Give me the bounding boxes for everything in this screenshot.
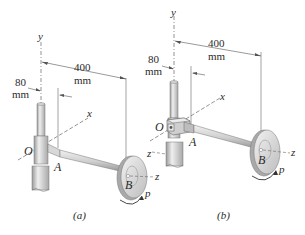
disk-face <box>254 130 280 174</box>
dim-offset-value: 80 <box>148 53 160 65</box>
pivot-pin-icon <box>170 126 173 129</box>
point-a-label: A <box>53 160 62 174</box>
arrowhead-icon <box>59 94 64 97</box>
z-axis-back-line <box>152 152 166 154</box>
tee-fitting <box>34 136 48 164</box>
point-b-label: B <box>258 153 266 167</box>
z-axis-label: z <box>290 146 296 158</box>
arrowhead-icon <box>169 66 174 69</box>
arrowhead-icon <box>192 72 197 75</box>
caption-a: (a) <box>73 209 86 222</box>
shaft-end-cap <box>37 103 45 106</box>
arrowhead-icon <box>175 41 181 44</box>
point-b-marker <box>259 148 262 151</box>
vertical-shaft-lower <box>32 166 49 190</box>
panel-b: y x 400 mm 80 mm <box>145 6 296 222</box>
arrowhead-icon <box>42 62 48 65</box>
arrowhead-icon <box>36 88 41 91</box>
dim-length-unit: mm <box>208 50 226 62</box>
caption-b: (b) <box>217 209 230 222</box>
dim-length-unit: mm <box>74 74 92 86</box>
dim-length-value: 400 <box>74 61 91 73</box>
point-o-label: O <box>155 120 164 134</box>
shaft-end-cap <box>170 81 178 84</box>
dim-offset-value: 80 <box>15 76 27 88</box>
point-a-label: A <box>188 135 197 149</box>
point-o-label: O <box>24 144 33 158</box>
vertical-shaft-upper <box>37 104 45 136</box>
z-axis-label: z <box>154 170 160 182</box>
y-axis-label: y <box>170 6 176 18</box>
point-b-label: B <box>125 178 133 192</box>
rotation-label: p <box>144 187 151 199</box>
x-axis-label: x <box>86 107 92 119</box>
arm-collar <box>184 122 194 133</box>
rotation-label: p <box>278 163 285 175</box>
y-axis-label: y <box>37 30 43 42</box>
x-axis-label: x <box>219 90 225 102</box>
panel-a: y x 400 mm 80 mm <box>12 30 160 222</box>
dim-offset-unit: mm <box>145 65 163 77</box>
vertical-shaft-upper <box>170 82 178 118</box>
dim-offset-unit: mm <box>12 88 30 100</box>
dim-length-value: 400 <box>208 37 225 49</box>
figure-canvas: y x 400 mm 80 mm <box>0 0 305 235</box>
arrowhead-icon <box>120 76 126 79</box>
z-axis-back-label: z <box>146 147 152 159</box>
vertical-shaft-lower <box>166 142 183 166</box>
